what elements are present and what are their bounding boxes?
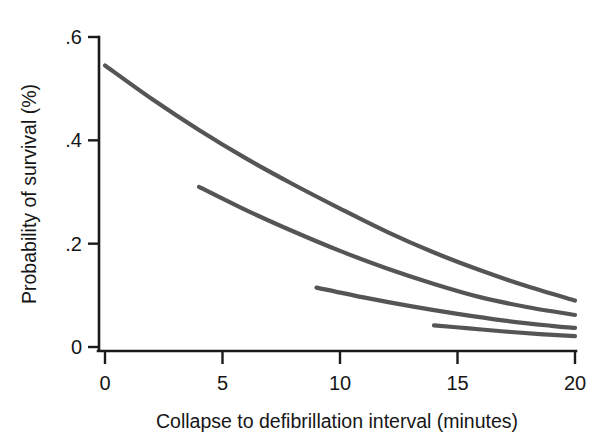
y-tick-label-2: .4 xyxy=(65,129,82,151)
chart-figure: 0.2.4.6 05101520 Collapse to defibrillat… xyxy=(0,0,604,446)
y-axis-ticks xyxy=(88,37,99,347)
x-tick-label-2: 10 xyxy=(329,372,351,394)
data-curves xyxy=(105,65,575,336)
x-tick-label-1: 5 xyxy=(217,372,228,394)
curve-line-2 xyxy=(199,187,575,315)
chart-plot-area: 0.2.4.6 05101520 Collapse to defibrillat… xyxy=(0,0,604,446)
x-axis-tick-labels: 05101520 xyxy=(99,372,586,394)
y-tick-label-3: .6 xyxy=(65,26,82,48)
x-tick-label-4: 20 xyxy=(564,372,586,394)
y-tick-label-1: .2 xyxy=(65,233,82,255)
y-axis-title: Probability of survival (%) xyxy=(18,84,40,304)
y-axis-tick-labels: 0.2.4.6 xyxy=(65,26,82,358)
y-tick-label-0: 0 xyxy=(71,336,82,358)
curve-line-1 xyxy=(105,65,575,300)
x-axis-title: Collapse to defibrillation interval (min… xyxy=(156,410,518,432)
x-tick-label-3: 15 xyxy=(446,372,468,394)
x-axis-ticks xyxy=(105,351,575,364)
x-tick-label-0: 0 xyxy=(99,372,110,394)
